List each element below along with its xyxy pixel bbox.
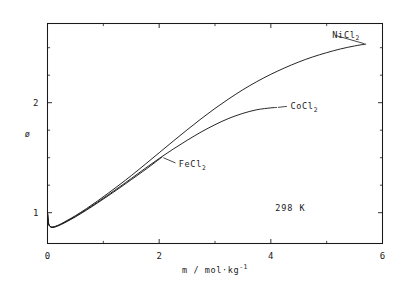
- x-tick-label: 6: [380, 251, 385, 261]
- annotation-temperature: 298 K: [275, 203, 305, 213]
- chart-canvas: 0246 12 FeCl2CoCl2NiCl2 298 K m / mol·kg…: [0, 0, 414, 282]
- x-axis-title: m / mol·kg-1: [182, 263, 248, 274]
- y-tick-label: 1: [33, 208, 38, 218]
- x-tick-label: 4: [268, 251, 273, 261]
- x-tick-label: 0: [45, 251, 50, 261]
- y-axis-title: ø: [25, 129, 31, 139]
- x-tick-label: 2: [156, 251, 161, 261]
- y-tick-label: 2: [33, 98, 38, 108]
- chart-background: [0, 0, 414, 282]
- chart-annotations: 298 K: [275, 203, 305, 213]
- osmotic-coefficient-chart: 0246 12 FeCl2CoCl2NiCl2 298 K m / mol·kg…: [0, 0, 414, 282]
